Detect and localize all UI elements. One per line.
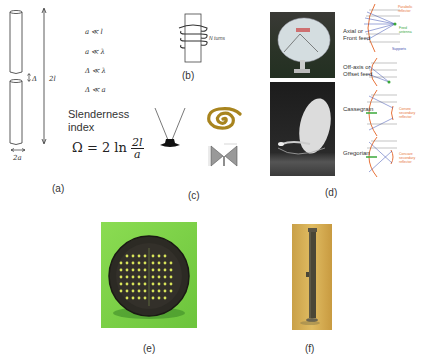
slenderness-line2: index — [68, 121, 129, 134]
formula-lhs: Ω = 2 ln — [72, 140, 127, 155]
slenderness-formula: Ω = 2 ln 2l a — [72, 137, 144, 160]
annotation-parabolic-reflector: Parabolic reflector — [398, 5, 424, 13]
feed-label-offset-line1: Off-axis or — [343, 64, 372, 71]
feed-label-offset-line2: Offset feed — [343, 71, 372, 78]
feed-label-cassegrain: Cassegrain — [343, 106, 373, 113]
caption-b: (b) — [182, 70, 194, 81]
feed-label-axial-line2: Front feed — [343, 35, 370, 42]
dipole-diagram — [0, 0, 60, 170]
caption-e: (e) — [143, 343, 155, 354]
slenderness-line1: Slenderness — [68, 108, 129, 121]
condition-1: a ≪ l — [85, 28, 103, 36]
rabbit-ear-dipole-icon — [150, 105, 190, 150]
spiral-antenna-icon — [203, 106, 243, 132]
turns-label: N turns — [209, 35, 225, 41]
feed-label-offset: Off-axis or Offset feed — [343, 64, 372, 78]
feed-label-gregorian: Gregorian — [343, 150, 370, 157]
caption-d: (d) — [325, 187, 337, 198]
condition-4: Δ ≪ a — [85, 86, 106, 94]
front-feed-dish-photo — [270, 12, 335, 78]
patch-array-photo — [101, 222, 197, 328]
formula-denominator: a — [131, 149, 144, 160]
circular-patch-array — [101, 222, 197, 328]
condition-2: a ≪ λ — [85, 48, 105, 56]
offset-dish-photo — [270, 82, 335, 176]
gap-label: Δ — [32, 75, 37, 83]
caption-c: (c) — [188, 190, 200, 201]
caption-a: (a) — [52, 183, 64, 194]
slenderness-title: Slenderness index — [68, 108, 129, 134]
condition-3: Δ ≪ λ — [85, 67, 106, 75]
monopole-rod — [292, 224, 332, 330]
monopole-rod-photo — [292, 224, 332, 330]
length-label: 2l — [49, 75, 56, 83]
annotation-convex-secondary: Convex secondary reflector — [399, 107, 425, 119]
annotation-feed-antenna: Feed antenna — [399, 26, 419, 34]
formula-fraction: 2l a — [131, 137, 144, 160]
feed-label-axial-line1: Axial or — [343, 28, 370, 35]
annotation-concave-secondary: Concave secondary reflector — [399, 152, 425, 164]
feed-label-axial: Axial or Front feed — [343, 28, 370, 42]
caption-f: (f) — [305, 343, 314, 354]
loop-coil-diagram — [175, 12, 235, 64]
diameter-label: 2a — [13, 154, 22, 162]
annotation-supports: Supports — [392, 47, 417, 51]
bowtie-antenna-icon — [208, 142, 240, 170]
